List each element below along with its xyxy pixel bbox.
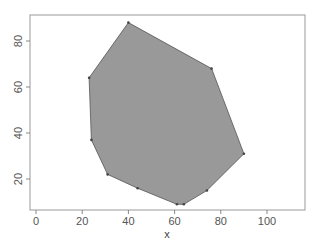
hull-vertex [106,173,109,176]
x-tick-label: 80 [215,215,227,227]
y-tick-label: 80 [12,35,24,47]
y-tick-label: 40 [12,127,24,139]
x-tick-label: 40 [122,215,134,227]
hull-vertex [127,21,130,24]
x-tick-label: 20 [76,215,88,227]
y-tick-label: 20 [12,173,24,185]
hull-vertex [90,139,93,142]
hull-vertex [176,203,179,206]
chart: 020406080100 20406080 x [0,0,316,251]
y-tick-label: 60 [12,81,24,93]
hull-vertex [183,203,186,206]
hull-vertex [243,152,246,155]
x-axis-label: x [164,228,170,240]
x-tick-label: 60 [168,215,180,227]
x-tick-label: 100 [258,215,276,227]
hull-vertex [206,189,209,192]
hull-vertex [88,77,91,80]
x-tick-label: 0 [33,215,39,227]
hull-vertex [210,67,213,70]
hull-vertex [136,187,139,190]
